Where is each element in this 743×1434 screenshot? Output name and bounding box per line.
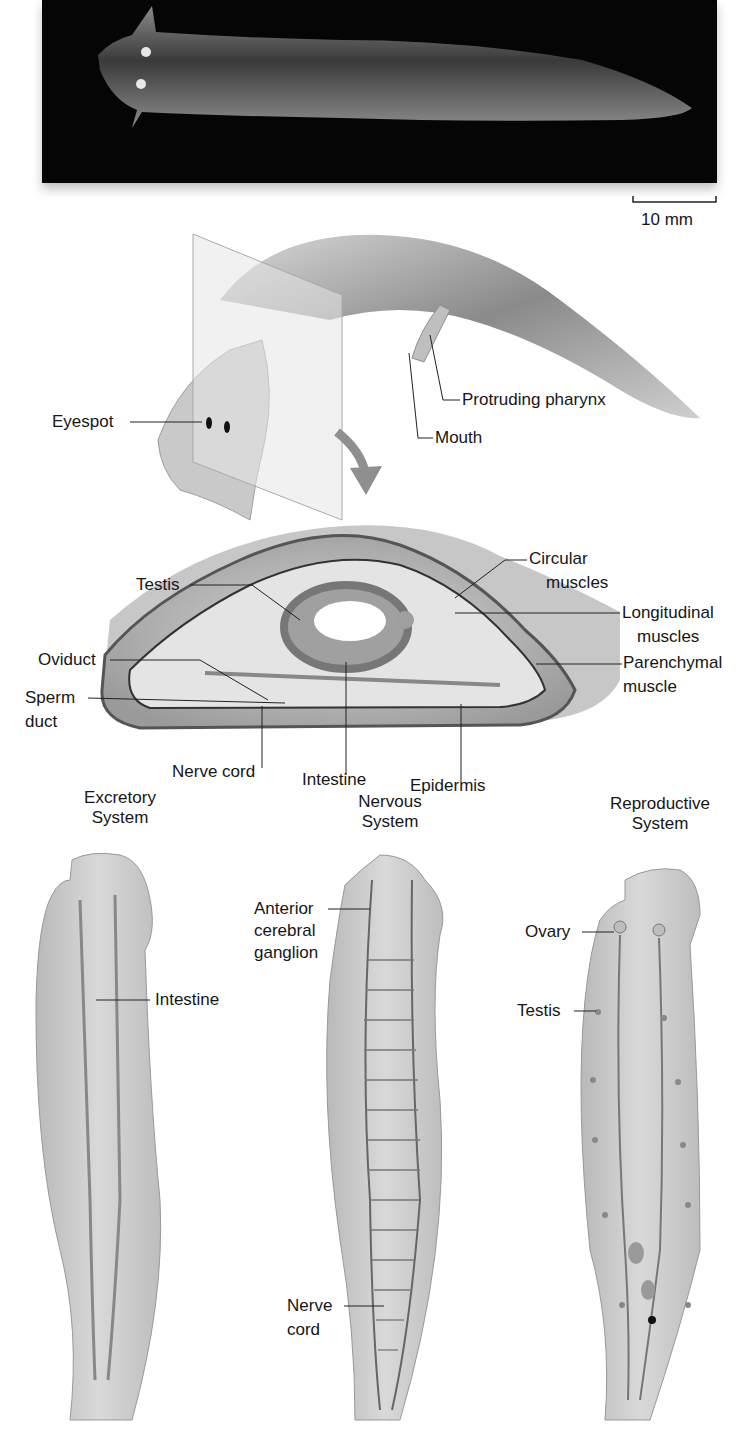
arrow-down-icon	[350, 466, 382, 495]
scale-bar	[633, 196, 716, 202]
excretory-system-illustration	[36, 853, 161, 1420]
label-circular-muscles-1: Circular	[529, 549, 588, 568]
label-excretory-intestine: Intestine	[155, 990, 219, 1009]
label-sperm-duct-1: Sperm	[25, 688, 75, 707]
label-longitudinal-muscles-1: Longitudinal	[622, 603, 714, 622]
label-nerve-cord: Nerve cord	[172, 762, 255, 781]
label-ganglion-1: Anterior	[254, 899, 314, 918]
title-nervous-1: Nervous	[340, 792, 440, 811]
label-circular-muscles-2: muscles	[546, 573, 608, 592]
eyespot-icon	[206, 417, 212, 429]
planarian-photo-silhouette	[42, 0, 717, 183]
eyespot-icon	[224, 421, 230, 433]
label-nerve-cord-2: cord	[287, 1320, 320, 1339]
label-ovary: Ovary	[525, 922, 570, 941]
title-excretory-2: System	[70, 808, 170, 827]
label-protruding-pharynx: Protruding pharynx	[462, 390, 606, 409]
title-reproductive-2: System	[600, 814, 720, 833]
title-reproductive-1: Reproductive	[600, 794, 720, 813]
label-parenchymal-muscle-2: muscle	[623, 677, 677, 696]
label-mouth: Mouth	[435, 428, 482, 447]
planarian-photo	[42, 0, 717, 183]
label-testis: Testis	[136, 575, 179, 594]
label-oviduct: Oviduct	[38, 650, 96, 669]
label-intestine: Intestine	[302, 770, 366, 789]
nervous-system-illustration	[327, 855, 443, 1420]
label-parenchymal-muscle-1: Parenchymal	[623, 653, 722, 672]
label-sperm-duct-2: duct	[25, 712, 57, 731]
planarian-3d-illustration	[158, 234, 700, 520]
photo-eyespot-icon	[136, 79, 146, 89]
scale-bar-label: 10 mm	[641, 210, 693, 229]
label-reproductive-testis: Testis	[517, 1001, 560, 1020]
title-excretory-1: Excretory	[70, 788, 170, 807]
label-longitudinal-muscles-2: muscles	[637, 627, 699, 646]
label-ganglion-2: cerebral	[254, 921, 315, 940]
label-ganglion-3: ganglion	[254, 943, 318, 962]
title-nervous-2: System	[340, 812, 440, 831]
photo-eyespot-icon	[141, 47, 151, 57]
label-nerve-cord-1: Nerve	[287, 1296, 332, 1315]
label-eyespot: Eyespot	[52, 412, 113, 431]
reproductive-system-illustration	[581, 869, 700, 1420]
